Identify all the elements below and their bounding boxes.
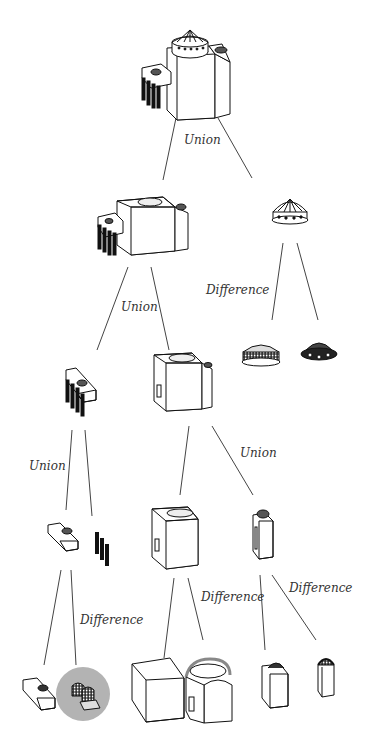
porch-with-columns	[66, 368, 96, 416]
op-label-dome-difference: Difference	[206, 283, 269, 297]
hollow-dome-cutter	[301, 343, 337, 360]
op-label-porch-union: Union	[29, 459, 66, 473]
op-label-building-union: Union	[121, 300, 158, 314]
op-label-root-union: Union	[184, 133, 221, 147]
vaulted-cutter	[186, 659, 232, 723]
building-without-dome	[98, 197, 188, 255]
op-label-tower-difference: Difference	[289, 581, 352, 595]
full-building	[142, 30, 230, 120]
dome-drum	[272, 199, 308, 224]
op-label-main-union: Union	[240, 446, 277, 460]
op-label-cube-difference: Difference	[201, 590, 264, 604]
main-block	[154, 353, 212, 411]
stair-tower	[253, 510, 273, 559]
wing-cutter-highlighted	[56, 667, 110, 721]
tower-block	[262, 663, 288, 708]
hollowed-cube	[152, 507, 198, 569]
op-label-wing-difference: Difference	[80, 613, 143, 627]
solid-cube	[132, 658, 184, 722]
csg-tree-diagram	[0, 0, 366, 750]
tower-cutter	[318, 659, 334, 697]
column-row	[95, 532, 109, 566]
wing-block	[23, 678, 55, 710]
solid-dome	[242, 345, 280, 366]
porch-block	[48, 523, 78, 551]
